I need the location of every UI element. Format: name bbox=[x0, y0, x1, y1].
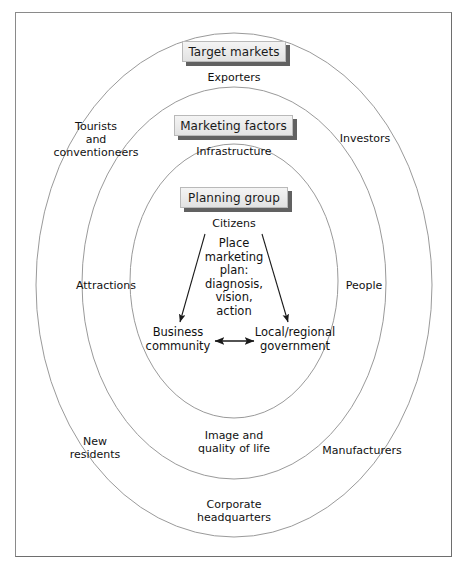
exporters-label: Exporters bbox=[184, 72, 284, 85]
infrastructure-label: Infrastructure bbox=[176, 146, 292, 159]
marketing-factors-box[interactable]: Marketing factors bbox=[174, 115, 293, 136]
citizens-label: Citizens bbox=[184, 218, 284, 231]
place-marketing-plan-text: Place marketing plan: diagnosis, vision,… bbox=[192, 237, 276, 318]
planning-group-box[interactable]: Planning group bbox=[180, 187, 288, 208]
planning-group-label: Planning group bbox=[188, 191, 280, 205]
target-markets-label: Target markets bbox=[188, 45, 279, 59]
corporate-headquarters-label: Corporate headquarters bbox=[172, 499, 296, 525]
investors-label: Investors bbox=[330, 133, 400, 146]
tourists-conventioneers-label: Tourists and conventioneers bbox=[48, 121, 144, 160]
new-residents-label: New residents bbox=[56, 436, 134, 462]
marketing-factors-label: Marketing factors bbox=[180, 119, 287, 133]
target-markets-box[interactable]: Target markets bbox=[182, 41, 286, 62]
business-community-node: Business community bbox=[138, 326, 218, 353]
people-label: People bbox=[333, 280, 395, 293]
image-quality-of-life-label: Image and quality of life bbox=[178, 430, 290, 456]
manufacturers-label: Manufacturers bbox=[316, 445, 408, 458]
diagram-canvas: Target markets Marketing factors Plannin… bbox=[0, 0, 466, 570]
attractions-label: Attractions bbox=[66, 280, 146, 293]
local-regional-government-node: Local/regional government bbox=[248, 326, 342, 353]
